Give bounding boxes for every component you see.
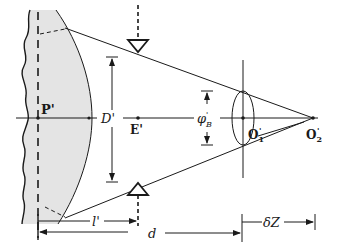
axis-point-O2 [311,116,315,120]
label-D: D' [100,111,115,126]
label-O1: O1' [248,125,264,144]
label-O2: O2' [306,125,322,144]
lower-stop-triangle-icon [128,183,148,195]
label-d: d [148,226,156,241]
axis-point-surface [87,116,90,119]
axis-point-E [136,116,140,120]
O1-leader [258,122,304,136]
label-P: P' [41,102,55,117]
label-dZ: δZ [263,215,281,230]
lower-cone-ray [65,118,313,218]
upper-stop-triangle-icon [128,40,148,52]
shaded-region [22,10,92,224]
upper-cone-ray [65,28,313,118]
label-l: l' [92,214,100,229]
optical-diagram: P' D' E' φB' O1' O2' l' d δZ [0,0,338,252]
axis-point-P [36,116,40,120]
axis-point-O1 [241,116,245,120]
label-E: E' [130,123,143,137]
